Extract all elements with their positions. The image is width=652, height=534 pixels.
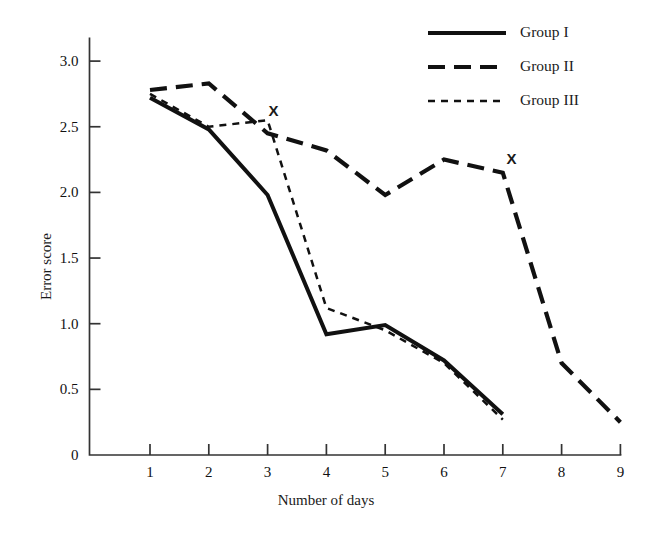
chart-canvas: [0, 0, 652, 534]
x-axis-tick-label: 2: [205, 464, 213, 481]
x-annotation-marker-1: X: [268, 101, 278, 118]
y-axis-tick-label: 1.0: [10, 315, 79, 332]
legend-label-1: Group I: [520, 23, 569, 41]
chart-figure: Error score Number of days 00.51.01.52.0…: [0, 0, 652, 534]
x-axis-tick-label: 5: [381, 464, 389, 481]
series-line-1: [150, 98, 503, 414]
x-axis-tick-label: 4: [323, 464, 331, 481]
y-axis-tick-label: 0: [10, 447, 79, 464]
y-axis-tick-label: 3.0: [10, 53, 79, 70]
x-annotation-marker-2: X: [507, 150, 517, 167]
legend-label-2: Group II: [520, 57, 574, 75]
y-axis-tick-label: 1.5: [10, 250, 79, 267]
series-line-2: [150, 83, 620, 422]
x-axis-tick-label: 3: [264, 464, 272, 481]
x-axis-tick-label: 9: [617, 464, 625, 481]
x-axis-tick-label: 1: [146, 464, 154, 481]
x-axis-title: Number of days: [0, 492, 652, 509]
y-axis-tick-label: 0.5: [10, 381, 79, 398]
series-line-3: [150, 94, 503, 420]
x-axis-tick-label: 8: [558, 464, 566, 481]
legend-label-3: Group III: [520, 91, 579, 109]
x-axis-tick-label: 7: [499, 464, 507, 481]
y-axis-tick-label: 2.0: [10, 184, 79, 201]
x-axis-tick-label: 6: [440, 464, 448, 481]
y-axis-tick-label: 2.5: [10, 118, 79, 135]
